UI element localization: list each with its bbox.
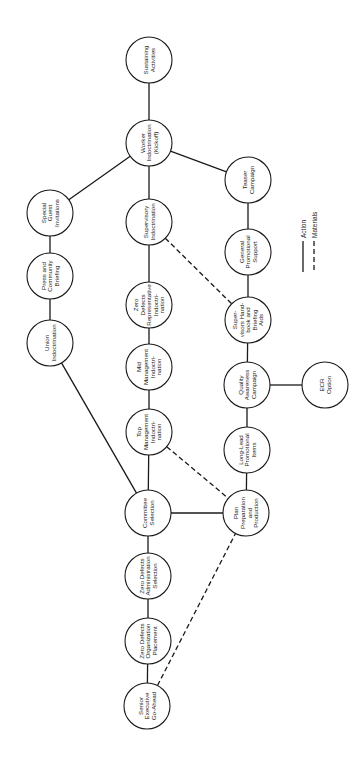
zero-defects-program-network-diagram: SustainingActivitiesWorkerIndoctrination… bbox=[0, 0, 351, 757]
node-long-lead: Long-LeadPromotionalItems bbox=[224, 427, 270, 473]
node-general-promo: GeneralPromotionalSupport bbox=[225, 229, 271, 275]
node-top-mgmt: TopManagementIndoctri-nation bbox=[126, 409, 172, 455]
edge-worker-to-teaser-action bbox=[171, 151, 227, 172]
node-supervisory: SupervisoryIndoctrination bbox=[126, 199, 172, 245]
node-special-guest: SpecialGuestInvitations bbox=[27, 190, 73, 236]
node-label: CommitteeSelection bbox=[141, 497, 155, 527]
edge-supervisory-to-handbook-materials bbox=[165, 238, 231, 304]
node-senior-exec: SeniorExecutiveGo-Ahead bbox=[124, 683, 170, 729]
node-ecr: ECROption bbox=[302, 362, 348, 408]
node-quality: QualityAwarenessCampaign bbox=[224, 362, 270, 408]
node-zd-rep: ZeroDefectsRepresentativeIndoctri-nation bbox=[126, 282, 172, 328]
edge-top_mgmt-to-plan_prep-materials bbox=[167, 447, 229, 499]
edge-senior_exec-to-plan_prep-materials bbox=[158, 534, 236, 686]
node-handbook: Super-visors Hand-book andBriefingAids bbox=[225, 297, 271, 343]
node-plan-prep: PlanPreparationandProduction bbox=[223, 490, 269, 536]
node-label: SustainingActivities bbox=[142, 45, 156, 74]
node-zd-admin: Zero DefectsAdministrationSelection bbox=[125, 553, 171, 599]
legend: Action Materials bbox=[300, 211, 318, 272]
node-label: Zero DefectsOrganizationPlacement bbox=[138, 623, 158, 659]
node-mid-mgmt: MidManagementIndoctri-nation bbox=[126, 344, 172, 390]
node-label: SupervisoryIndoctrination bbox=[142, 203, 156, 241]
legend-action-label: Action bbox=[300, 220, 307, 238]
edge-union-to-committee-action bbox=[62, 363, 137, 493]
node-worker: WorkerIndoctrination(Kickoff) bbox=[126, 120, 172, 166]
nodes-layer: SustainingActivitiesWorkerIndoctrination… bbox=[27, 37, 348, 729]
legend-materials-label: Materials bbox=[311, 211, 318, 238]
node-teaser: TeaserCampaign bbox=[225, 157, 271, 203]
edge-worker-to-special_guest-action bbox=[69, 156, 130, 199]
node-committee: CommitteeSelection bbox=[125, 490, 171, 536]
node-press: Press andCommunityBriefing bbox=[27, 253, 73, 299]
node-union: UnionIndoctrination bbox=[27, 320, 73, 366]
node-sustaining: SustainingActivities bbox=[126, 37, 172, 83]
node-zd-org: Zero DefectsOrganizationPlacement bbox=[125, 618, 171, 664]
